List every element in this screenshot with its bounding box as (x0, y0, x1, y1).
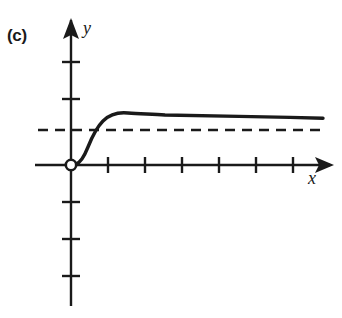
y-axis-label: y (83, 18, 91, 39)
plot-area (0, 0, 342, 318)
figure-panel-c: (c) (0, 0, 342, 318)
open-circle-marker (66, 160, 76, 170)
curve-path (76, 113, 323, 164)
x-axis-label: x (308, 168, 316, 189)
